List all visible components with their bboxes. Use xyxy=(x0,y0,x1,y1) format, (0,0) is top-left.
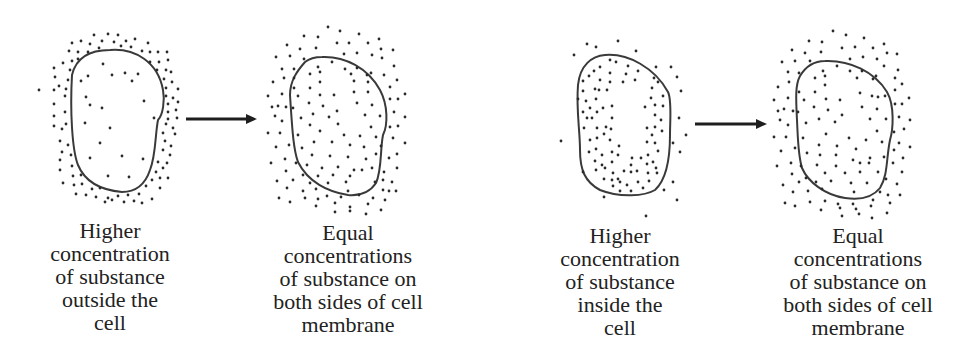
caption-line: of substance xyxy=(530,270,710,293)
caption-line: both sides of cell xyxy=(760,293,956,316)
caption-line: concentration xyxy=(530,247,710,270)
cell-3-group xyxy=(560,40,688,218)
caption-line: Higher xyxy=(20,219,200,242)
caption-line: inside the xyxy=(530,293,710,316)
cell-4-group xyxy=(773,30,912,220)
caption-after-inside: Equal concentrations of substance on bot… xyxy=(760,224,956,339)
molecule-dots-inside-1 xyxy=(80,63,156,179)
caption-line: concentrations xyxy=(250,244,446,267)
caption-line: of substance on xyxy=(760,270,956,293)
caption-line: Equal xyxy=(760,224,956,247)
caption-line: concentration xyxy=(20,242,200,265)
caption-line: concentrations xyxy=(760,247,956,270)
caption-line: both sides of cell xyxy=(250,290,446,313)
caption-line: membrane xyxy=(760,316,956,339)
cell-2-group xyxy=(267,26,407,216)
caption-line: of substance on xyxy=(250,267,446,290)
caption-line: of substance xyxy=(20,265,200,288)
caption-line: cell xyxy=(20,311,200,334)
molecule-dots-inside-3 xyxy=(577,59,665,193)
cell-membrane-4 xyxy=(796,61,892,199)
molecule-dots-4 xyxy=(773,30,912,220)
cell-membrane-1 xyxy=(71,50,164,192)
caption-line: Equal xyxy=(250,221,446,244)
caption-before-outside: Higher concentration of substance outsid… xyxy=(20,219,200,334)
caption-line: Higher xyxy=(530,224,710,247)
caption-line: membrane xyxy=(250,313,446,336)
caption-line: cell xyxy=(530,316,710,339)
caption-before-inside: Higher concentration of substance inside… xyxy=(530,224,710,339)
cell-1-group xyxy=(38,33,180,205)
caption-line: outside the xyxy=(20,288,200,311)
caption-after-outside: Equal concentrations of substance on bot… xyxy=(250,221,446,336)
right-arrow-icon xyxy=(186,114,257,124)
right-arrow-icon xyxy=(695,119,767,129)
